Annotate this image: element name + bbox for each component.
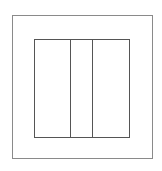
inner-panel [34,39,130,138]
divider-left [70,40,71,137]
divider-right [92,40,93,137]
